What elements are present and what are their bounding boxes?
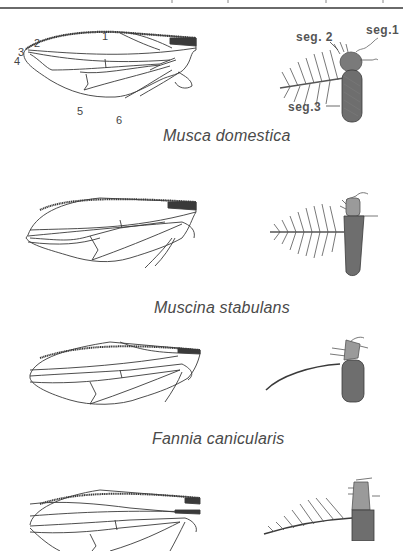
antenna-illustration xyxy=(260,170,409,290)
antenna-label-seg1: seg.1 xyxy=(366,24,399,36)
species-caption: Musca domestica xyxy=(163,127,291,145)
wing-label-4: 4 xyxy=(14,56,20,67)
figure-muscina-stabulans: Muscina stabulans xyxy=(0,180,409,320)
wing-label-2: 2 xyxy=(34,38,40,49)
species-caption: Fannia canicularis xyxy=(152,430,285,448)
wing-label-6: 6 xyxy=(116,115,122,126)
antenna-label-seg3: seg.3 xyxy=(288,101,321,113)
wing-label-5: 5 xyxy=(77,106,83,117)
antenna-illustration xyxy=(260,460,409,541)
figure-musca-domestica: 1 2 3 4 5 6 seg. 2 seg.1 seg.3 Musca dom… xyxy=(0,0,409,150)
figure-fourth-species-partial xyxy=(0,470,409,551)
antenna-illustration xyxy=(260,320,409,440)
wing-illustration xyxy=(0,180,210,280)
figure-fannia-canicularis: Fannia canicularis xyxy=(0,320,409,460)
species-caption: Muscina stabulans xyxy=(154,299,290,317)
antenna-label-seg2: seg. 2 xyxy=(296,31,333,43)
wing-illustration xyxy=(0,470,210,551)
wing-label-1: 1 xyxy=(102,31,108,42)
wing-illustration xyxy=(0,320,210,420)
